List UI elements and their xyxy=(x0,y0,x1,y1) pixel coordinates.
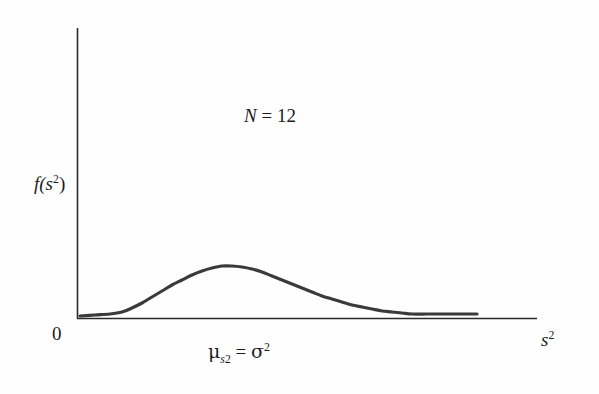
mean-equals: = xyxy=(231,341,251,362)
plot-canvas xyxy=(0,0,599,394)
y-axis-label: f(s2) xyxy=(34,174,65,193)
mean-sigma-exponent: 2 xyxy=(264,341,270,354)
sample-size-value: 12 xyxy=(277,105,296,126)
y-axis-label-f: f(s xyxy=(34,173,53,194)
y-axis-label-paren: ) xyxy=(59,173,65,194)
sample-size-equals: = xyxy=(257,105,277,126)
x-axis-label: s2 xyxy=(541,330,554,349)
sample-size-symbol: N xyxy=(244,105,257,126)
origin-label: 0 xyxy=(52,324,62,343)
mean-mu-subscript: s2 xyxy=(220,353,230,366)
mean-annotation: μs2 = σ2 xyxy=(208,342,270,361)
sample-size-annotation: N = 12 xyxy=(244,106,296,125)
distribution-figure: f(s2) 0 s2 N = 12 μs2 = σ2 xyxy=(0,0,599,394)
mean-sigma-symbol: σ xyxy=(251,340,264,362)
mean-mu-symbol: μ xyxy=(208,340,220,362)
x-axis-label-exponent: 2 xyxy=(548,329,554,342)
density-curve xyxy=(80,266,477,316)
